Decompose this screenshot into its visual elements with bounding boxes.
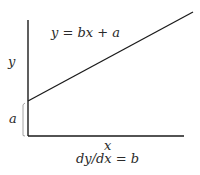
linear-function-diagram: y = bx + a y a x dy/dx = b — [0, 0, 200, 175]
y-axis-label: y — [7, 54, 16, 69]
intercept-label: a — [9, 111, 17, 126]
equation-label: y = bx + a — [50, 25, 120, 40]
intercept-brace — [23, 103, 25, 136]
slope-caption: dy/dx = b — [76, 151, 139, 166]
